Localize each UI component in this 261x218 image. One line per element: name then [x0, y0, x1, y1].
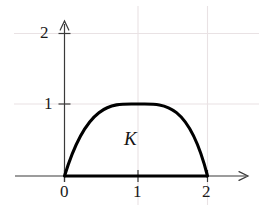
x-tick-label-0: 0 — [60, 183, 69, 200]
x-tick-label-2: 2 — [202, 183, 211, 200]
y-axis — [59, 21, 71, 182]
figure-canvas: 2 1 0 1 2 K — [0, 0, 261, 218]
y-tick-label-1: 1 — [44, 95, 53, 112]
x-tick-label-1: 1 — [133, 183, 142, 200]
y-tick-label-2: 2 — [40, 24, 49, 41]
region-label-k: K — [124, 129, 137, 148]
